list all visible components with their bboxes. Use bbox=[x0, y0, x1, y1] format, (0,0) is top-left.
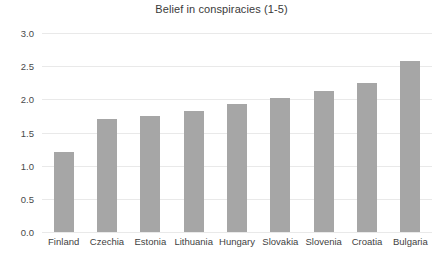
x-tick-label: Estonia bbox=[134, 236, 166, 247]
bar bbox=[227, 104, 247, 232]
bar bbox=[97, 119, 117, 232]
x-tick-label: Bulgaria bbox=[393, 236, 428, 247]
x-tick-label: Slovakia bbox=[262, 236, 298, 247]
y-tick-label: 0.0 bbox=[21, 227, 34, 238]
y-tick-label: 2.5 bbox=[21, 61, 34, 72]
x-tick-label: Czechia bbox=[90, 236, 124, 247]
x-axis: FinlandCzechiaEstoniaLithuaniaHungarySlo… bbox=[42, 236, 432, 256]
chart-title: Belief in conspiracies (1-5) bbox=[0, 3, 443, 15]
y-tick-label: 0.5 bbox=[21, 193, 34, 204]
bar-chart: Belief in conspiracies (1-5) 0.00.51.01.… bbox=[0, 0, 443, 263]
x-tick-label: Hungary bbox=[219, 236, 255, 247]
x-tick-label: Lithuania bbox=[174, 236, 213, 247]
x-tick-label: Slovenia bbox=[305, 236, 341, 247]
y-tick-label: 2.0 bbox=[21, 94, 34, 105]
y-tick-label: 1.5 bbox=[21, 127, 34, 138]
bar bbox=[140, 116, 160, 232]
y-tick-label: 3.0 bbox=[21, 28, 34, 39]
bar bbox=[54, 152, 74, 232]
y-tick-label: 1.0 bbox=[21, 160, 34, 171]
bar bbox=[314, 91, 334, 232]
gridline bbox=[42, 232, 432, 233]
bar bbox=[400, 61, 420, 232]
x-tick-label: Croatia bbox=[352, 236, 383, 247]
bars-layer bbox=[42, 33, 432, 232]
x-tick-label: Finland bbox=[48, 236, 79, 247]
bar bbox=[184, 111, 204, 232]
bar bbox=[270, 98, 290, 232]
bar bbox=[357, 83, 377, 232]
y-axis: 0.00.51.01.52.02.53.0 bbox=[0, 0, 42, 263]
